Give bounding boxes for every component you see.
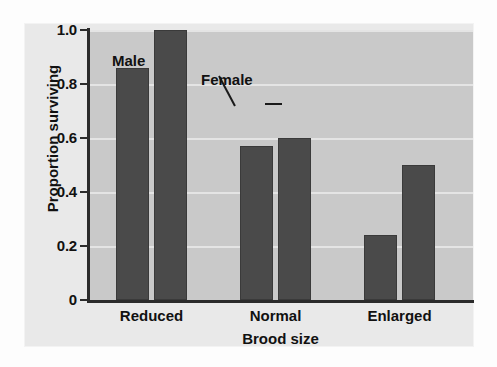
y-tick-1.0: 1.0 <box>25 21 77 37</box>
y-axis-line <box>87 28 90 302</box>
y-tick-mark-0.4 <box>80 191 87 193</box>
y-tick-mark-0.8 <box>80 83 87 85</box>
annotation-leader-female <box>265 103 282 105</box>
x-category-label-enlarged: Enlarged <box>336 307 463 324</box>
annotation-label-female: Female <box>201 71 253 88</box>
bar-reduced-female <box>154 30 187 300</box>
y-tick-label-0: 0 <box>69 291 77 308</box>
x-category-label-normal: Normal <box>212 307 339 324</box>
bar-normal-female <box>278 138 311 300</box>
x-axis-line <box>87 300 474 303</box>
x-category-label-reduced: Reduced <box>88 307 215 324</box>
y-axis-title: Proportion surviving <box>44 44 61 234</box>
y-tick-label-1.0: 1.0 <box>57 21 77 38</box>
y-tick-0.2: 0.2 <box>25 237 77 253</box>
bar-enlarged-male <box>364 235 397 300</box>
annotation-label-male: Male <box>112 52 145 69</box>
bar-chart: Male Female 1.0 0.8 0.6 0.4 0.2 <box>25 24 473 346</box>
plot-area: Male Female <box>88 30 473 300</box>
y-tick-mark-0.6 <box>80 137 87 139</box>
figure-root: Male Female 1.0 0.8 0.6 0.4 0.2 <box>0 0 497 367</box>
y-tick-mark-0.2 <box>80 245 87 247</box>
bar-reduced-male <box>116 68 149 300</box>
y-tick-mark-0 <box>80 299 87 301</box>
gridline-1.0 <box>88 30 473 32</box>
bar-normal-male <box>240 146 273 300</box>
x-axis-title: Brood size <box>88 330 473 347</box>
y-tick-label-0.2: 0.2 <box>57 237 77 254</box>
y-tick-mark-1.0 <box>80 29 87 31</box>
y-tick-0: 0 <box>25 291 77 307</box>
bar-enlarged-female <box>402 165 435 300</box>
